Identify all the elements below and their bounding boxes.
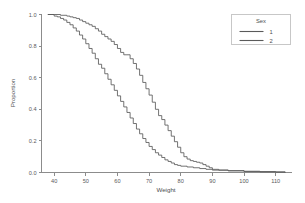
x-tick-label: 40 xyxy=(51,178,57,184)
y-tick-label: 1.0 xyxy=(29,12,37,18)
legend-title: Sex xyxy=(256,18,266,24)
y-tick-label: 0.8 xyxy=(29,43,37,49)
chart-container: 0.00.20.40.60.81.0405060708090100110 Sex… xyxy=(0,0,305,203)
y-axis-title: Proportion xyxy=(9,78,16,107)
x-tick-label: 100 xyxy=(239,178,248,184)
y-tick-label: 0.2 xyxy=(29,138,37,144)
y-tick-label: 0.6 xyxy=(29,75,37,81)
y-tick-label: 0.0 xyxy=(29,170,37,176)
chart-legend[interactable]: Sex12 xyxy=(232,15,291,45)
x-tick-label: 90 xyxy=(209,178,215,184)
y-tick-label: 0.4 xyxy=(29,106,37,112)
chart-svg: 0.00.20.40.60.81.0405060708090100110 Sex… xyxy=(0,0,305,203)
x-tick-label: 60 xyxy=(114,178,120,184)
x-tick-label: 50 xyxy=(83,178,89,184)
legend-label-1[interactable]: 1 xyxy=(270,29,273,35)
x-axis-title: Weight xyxy=(156,186,175,193)
x-tick-label: 110 xyxy=(271,178,280,184)
x-tick-label: 80 xyxy=(178,178,184,184)
legend-label-2[interactable]: 2 xyxy=(270,38,273,44)
x-tick-label: 70 xyxy=(146,178,152,184)
